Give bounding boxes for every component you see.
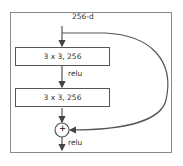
conv-layer-2-label: 3 x 3, 256 xyxy=(44,93,82,102)
sum-symbol: + xyxy=(59,124,66,133)
relu-label-middle: relu xyxy=(68,69,82,78)
conv-layer-1: 3 x 3, 256 xyxy=(15,47,110,66)
conv-layer-2: 3 x 3, 256 xyxy=(15,88,110,107)
conv-layer-1-label: 3 x 3, 256 xyxy=(44,52,82,61)
connections xyxy=(0,0,183,166)
input-label: 256-d xyxy=(72,12,94,21)
relu-label-output: relu xyxy=(68,138,82,147)
